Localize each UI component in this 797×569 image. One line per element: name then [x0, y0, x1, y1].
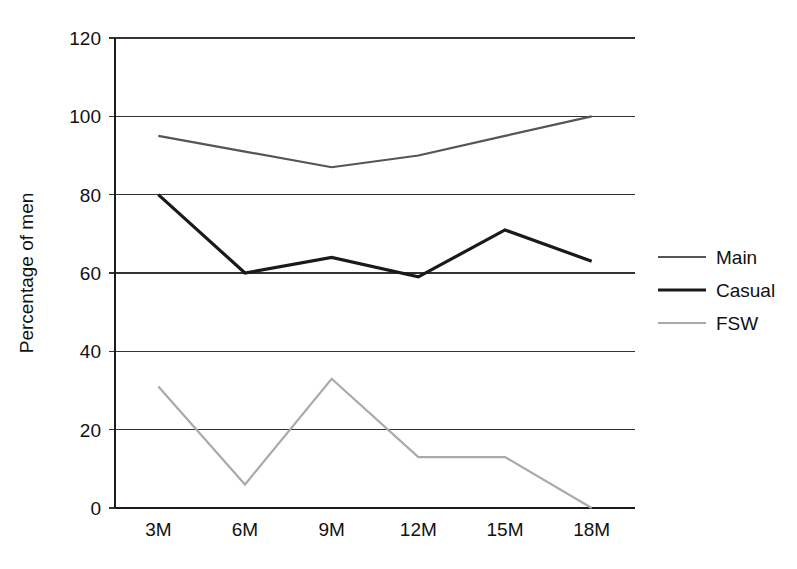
- x-tick-label: 9M: [318, 519, 344, 540]
- x-tick-label: 15M: [487, 519, 524, 540]
- y-tick-label: 60: [80, 263, 101, 284]
- legend-label-casual: Casual: [716, 280, 775, 301]
- chart-figure: 020406080100120 3M6M9M12M15M18M Percenta…: [0, 0, 797, 569]
- x-tick-label: 6M: [232, 519, 258, 540]
- y-tick-label: 40: [80, 341, 101, 362]
- y-tick-label: 0: [90, 498, 101, 519]
- legend-label-main: Main: [716, 247, 757, 268]
- y-tick-label: 80: [80, 185, 101, 206]
- legend-label-fsw: FSW: [716, 313, 758, 334]
- chart-background: [0, 0, 797, 569]
- x-tick-label: 3M: [145, 519, 171, 540]
- y-tick-label: 120: [69, 28, 101, 49]
- x-tick-label: 18M: [573, 519, 610, 540]
- x-tick-label: 12M: [400, 519, 437, 540]
- y-tick-label: 100: [69, 106, 101, 127]
- y-axis-title: Percentage of men: [16, 193, 37, 354]
- line-chart: 020406080100120 3M6M9M12M15M18M Percenta…: [0, 0, 797, 569]
- y-tick-label: 20: [80, 420, 101, 441]
